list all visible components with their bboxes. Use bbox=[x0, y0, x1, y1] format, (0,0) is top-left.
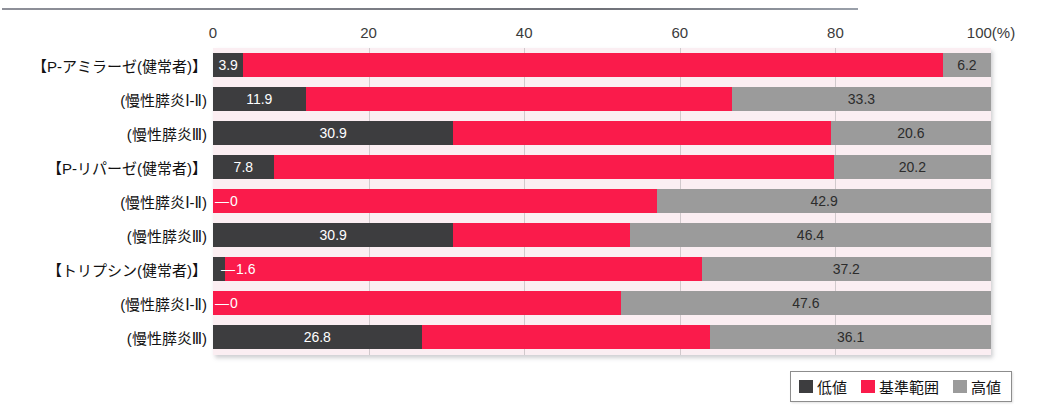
category-label: (慢性膵炎Ⅲ) bbox=[127, 223, 207, 247]
legend-label: 基準範囲 bbox=[879, 376, 939, 397]
legend-item: 低値 bbox=[799, 376, 847, 397]
segment-value-label: 33.3 bbox=[848, 92, 875, 106]
segment-value-label: 6.2 bbox=[957, 58, 976, 72]
segment-value-label: 20.6 bbox=[897, 126, 924, 140]
bar-segment-ref bbox=[306, 87, 732, 111]
segment-value-label: 11.9 bbox=[246, 92, 272, 106]
legend-swatch-icon bbox=[799, 380, 813, 393]
category-label: (慢性膵炎Ⅰ-Ⅱ) bbox=[120, 291, 207, 315]
x-tick-label: 80 bbox=[827, 24, 844, 41]
bar-segment-ref bbox=[453, 121, 830, 145]
bar-segment-ref bbox=[213, 189, 657, 213]
stacked-bar-chart: 020406080100(%) 3.96.211.933.330.920.67.… bbox=[0, 0, 1042, 415]
segment-value-label: 0 bbox=[215, 194, 238, 208]
bar-segment-low: 11.9 bbox=[213, 87, 306, 111]
bar-segment-ref bbox=[243, 53, 942, 77]
bar-segment-high: 6.2 bbox=[943, 53, 991, 77]
segment-value-label: 0 bbox=[215, 296, 238, 310]
segment-value-label: 46.4 bbox=[797, 228, 824, 242]
chart-legend: 低値基準範囲高値 bbox=[790, 371, 1012, 402]
bar-row: 26.836.1 bbox=[213, 325, 991, 349]
bar-segment-high: 37.2 bbox=[702, 257, 991, 281]
bar-segment-high: 33.3 bbox=[732, 87, 991, 111]
bar-row: 11.933.3 bbox=[213, 87, 991, 111]
bar-segment-low: 26.8 bbox=[213, 325, 422, 349]
bar-row: 30.920.6 bbox=[213, 121, 991, 145]
bar-row: 042.9 bbox=[213, 189, 991, 213]
category-label: 【P-リパーゼ(健常者)】 bbox=[47, 155, 207, 179]
category-label: (慢性膵炎Ⅰ-Ⅱ) bbox=[120, 189, 207, 213]
legend-item: 基準範囲 bbox=[861, 376, 939, 397]
top-divider-rule bbox=[2, 8, 858, 10]
bar-segment-ref bbox=[422, 325, 711, 349]
segment-value-label: 1.6 bbox=[221, 262, 255, 276]
segment-value-label: 42.9 bbox=[810, 194, 837, 208]
bar-row: 3.96.2 bbox=[213, 53, 991, 77]
legend-swatch-icon bbox=[953, 380, 967, 393]
segment-value-label: 30.9 bbox=[320, 228, 347, 242]
bar-segment-low: 7.8 bbox=[213, 155, 274, 179]
category-label: 【P-アミラーゼ(健常者)】 bbox=[32, 53, 207, 77]
bar-row: 1.637.2 bbox=[213, 257, 991, 281]
segment-value-label: 37.2 bbox=[833, 262, 860, 276]
bar-segment-ref bbox=[274, 155, 834, 179]
bar-segment-low: 3.9 bbox=[213, 53, 243, 77]
category-label: 【トリプシン(健常者)】 bbox=[47, 257, 207, 281]
category-label: (慢性膵炎Ⅲ) bbox=[127, 325, 207, 349]
legend-swatch-icon bbox=[861, 380, 875, 393]
segment-value-label: 26.8 bbox=[304, 330, 331, 344]
x-axis-tick-labels: 020406080100(%) bbox=[213, 24, 991, 44]
bar-segment-high: 46.4 bbox=[630, 223, 991, 247]
category-labels: 【P-アミラーゼ(健常者)】(慢性膵炎Ⅰ-Ⅱ)(慢性膵炎Ⅲ)【P-リパーゼ(健常… bbox=[0, 48, 207, 355]
x-tick-label: 0 bbox=[209, 24, 217, 41]
bar-segment-low: 30.9 bbox=[213, 223, 453, 247]
legend-label: 高値 bbox=[971, 376, 1001, 397]
x-tick-label: 60 bbox=[671, 24, 688, 41]
bar-segment-high: 20.6 bbox=[831, 121, 991, 145]
segment-value-label: 47.6 bbox=[792, 296, 819, 310]
legend-item: 高値 bbox=[953, 376, 1001, 397]
bar-segment-low: 30.9 bbox=[213, 121, 453, 145]
category-label: (慢性膵炎Ⅰ-Ⅱ) bbox=[120, 87, 207, 111]
bar-row: 7.820.2 bbox=[213, 155, 991, 179]
bar-segment-ref bbox=[225, 257, 701, 281]
segment-value-label: 7.8 bbox=[234, 160, 253, 174]
bar-segment-high: 20.2 bbox=[834, 155, 991, 179]
segment-value-label: 3.9 bbox=[218, 58, 237, 72]
bar-segment-ref bbox=[213, 291, 621, 315]
bar-segment-low: 1.6 bbox=[213, 257, 225, 281]
plot-area: 3.96.211.933.330.920.67.820.2042.930.946… bbox=[213, 48, 991, 355]
bar-rows: 3.96.211.933.330.920.67.820.2042.930.946… bbox=[213, 48, 991, 355]
x-tick-label: 100(%) bbox=[967, 24, 1015, 41]
bar-row: 30.946.4 bbox=[213, 223, 991, 247]
bar-segment-high: 42.9 bbox=[657, 189, 991, 213]
category-label: (慢性膵炎Ⅲ) bbox=[127, 121, 207, 145]
segment-value-label: 30.9 bbox=[320, 126, 347, 140]
bar-segment-ref bbox=[453, 223, 630, 247]
bar-row: 047.6 bbox=[213, 291, 991, 315]
segment-value-label: 36.1 bbox=[837, 330, 864, 344]
legend-label: 低値 bbox=[817, 376, 847, 397]
x-tick-label: 20 bbox=[360, 24, 377, 41]
bar-segment-high: 36.1 bbox=[710, 325, 991, 349]
bar-segment-high: 47.6 bbox=[621, 291, 991, 315]
segment-value-label: 20.2 bbox=[899, 160, 926, 174]
x-tick-label: 40 bbox=[516, 24, 533, 41]
